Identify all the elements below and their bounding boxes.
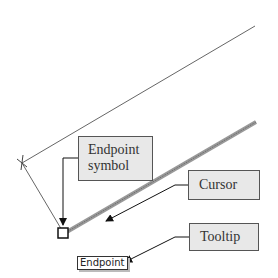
endpoint-tooltip: Endpoint <box>77 256 128 270</box>
callout-tooltip-label: Tooltip <box>200 229 240 244</box>
leader-endpoint-symbol <box>63 158 78 225</box>
extension-line <box>22 163 63 232</box>
callout-endpoint-symbol: Endpoint symbol <box>78 136 153 181</box>
leader-tooltip <box>125 237 189 262</box>
callout-cursor: Cursor <box>188 170 260 200</box>
endpoint-symbol-icon <box>58 228 68 238</box>
callout-tooltip: Tooltip <box>189 223 259 251</box>
callout-line2: symbol <box>88 158 152 174</box>
cross-marker-icon <box>17 155 27 170</box>
tooltip-label: Endpoint <box>80 257 125 268</box>
diagram-canvas: Endpoint symbol Cursor Tooltip Endpoint <box>0 0 278 278</box>
callout-cursor-label: Cursor <box>199 177 237 192</box>
callout-line1: Endpoint <box>88 142 152 158</box>
